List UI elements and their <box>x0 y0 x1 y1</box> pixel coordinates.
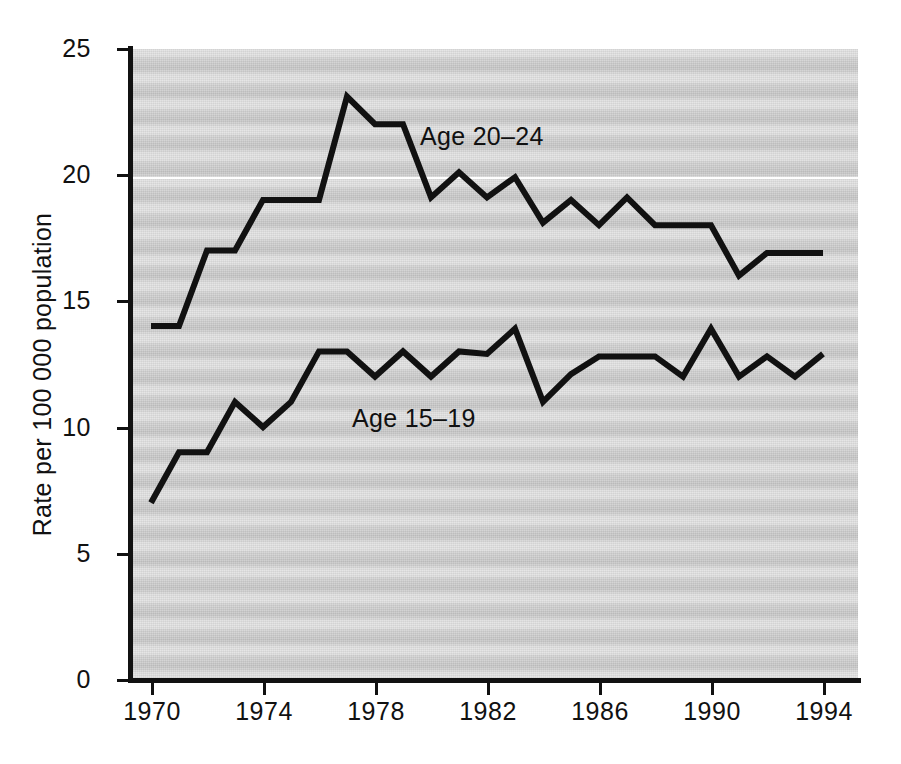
y-tick-15 <box>117 300 128 303</box>
y-tick-20 <box>117 174 128 177</box>
x-tick-1978 <box>375 683 378 695</box>
chart-figure: 25 20 15 10 5 0 1970 1974 1978 1982 1986… <box>0 0 901 764</box>
y-tick-10 <box>117 427 128 430</box>
x-tick-1994 <box>823 683 826 695</box>
scan-highlight-band <box>131 177 858 179</box>
x-tick-label-1994: 1994 <box>764 697 884 726</box>
x-tick-label-1978: 1978 <box>316 697 436 726</box>
x-tick-label-1970: 1970 <box>92 697 212 726</box>
x-tick-label-1974: 1974 <box>204 697 324 726</box>
y-tick-0 <box>117 679 128 682</box>
x-tick-label-1982: 1982 <box>428 697 548 726</box>
x-tick-label-1986: 1986 <box>540 697 660 726</box>
x-tick-1982 <box>487 683 490 695</box>
x-tick-1986 <box>599 683 602 695</box>
y-tick-label-25: 25 <box>0 34 91 63</box>
series-label-age-20-24: Age 20–24 <box>420 122 544 151</box>
y-tick-5 <box>117 553 128 556</box>
y-tick-label-0: 0 <box>0 665 91 694</box>
x-tick-1990 <box>711 683 714 695</box>
y-axis-title: Rate per 100 000 population <box>28 95 57 655</box>
x-tick-1970 <box>151 683 154 695</box>
y-axis-line <box>128 46 133 683</box>
x-tick-label-1990: 1990 <box>652 697 772 726</box>
x-tick-1974 <box>263 683 266 695</box>
x-axis-line <box>128 678 861 683</box>
series-label-age-15-19: Age 15–19 <box>352 404 476 433</box>
y-tick-25 <box>117 48 128 51</box>
